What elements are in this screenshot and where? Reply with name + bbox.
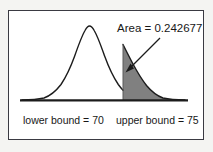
area-annotation-label: Area = 0.242677	[117, 22, 202, 34]
lower-bound-label: lower bound = 70	[23, 114, 104, 126]
upper-bound-label: upper bound = 75	[116, 114, 199, 126]
area-leader-line	[130, 38, 160, 68]
shaded-area-region	[123, 45, 185, 101]
normal-curve	[22, 26, 123, 100]
statistics-figure: Area = 0.242677 lower bound = 70 upper b…	[0, 0, 213, 152]
